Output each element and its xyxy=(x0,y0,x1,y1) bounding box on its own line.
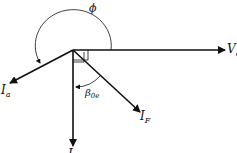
if-phasor xyxy=(73,50,140,112)
beta-angle-arc xyxy=(76,76,100,87)
phasor-diagram: ϕ Va Ia IF I β0e xyxy=(0,0,237,153)
ia-phasor xyxy=(10,50,73,83)
i-label: I xyxy=(67,147,73,153)
beta-label: β0e xyxy=(84,87,99,100)
ia-label: Ia xyxy=(0,83,11,99)
right-angle-marker-i xyxy=(73,52,84,62)
if-label: IF xyxy=(139,109,151,125)
phi-label: ϕ xyxy=(89,2,97,15)
va-label: Va xyxy=(227,42,237,58)
